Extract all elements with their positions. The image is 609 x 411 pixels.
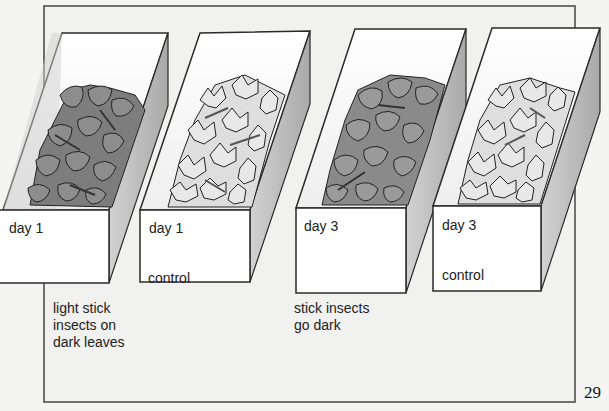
page-number: 29 [584,383,601,403]
caption-line: insects on [53,317,125,334]
diagram: day 1 day 1 control day 3 day 3 control … [0,0,609,411]
box-3-caption: stick insects go dark [294,300,369,334]
box-3-day-label: day 3 [304,218,338,235]
caption-line: go dark [294,317,369,334]
box-1-caption: light stick insects on dark leaves [53,300,125,351]
box-4-day-label: day 3 [442,217,476,234]
box-2-control-label: control [148,270,190,287]
box-2-day-label: day 1 [149,220,183,237]
caption-line: dark leaves [53,334,125,351]
box-4-control-label: control [442,267,484,284]
caption-line: light stick [53,300,125,317]
caption-line: stick insects [294,300,369,317]
box-1-day-label: day 1 [9,220,43,237]
